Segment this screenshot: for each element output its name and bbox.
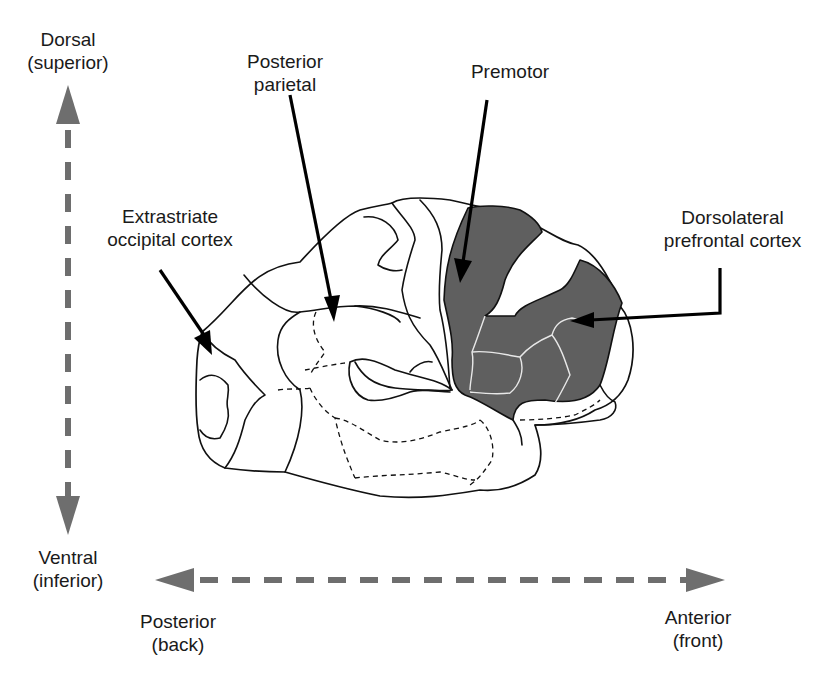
posterior-parietal-label-line1: Posterior xyxy=(230,50,340,73)
ventral-label-line1: Ventral xyxy=(18,546,118,569)
dorsal-label-line1: Dorsal xyxy=(18,28,118,51)
extrastriate-label-line1: Extrastriate xyxy=(90,205,250,228)
arrow-up-icon xyxy=(56,85,80,124)
frontal-highlight xyxy=(444,206,622,420)
arrow-right-icon xyxy=(686,568,725,592)
anterior-label: Anterior (front) xyxy=(648,606,748,652)
extrastriate-pointer xyxy=(160,270,204,335)
premotor-label-line1: Premotor xyxy=(455,60,565,83)
premotor-label: Premotor xyxy=(455,60,565,83)
arrow-left-icon xyxy=(155,568,194,592)
ventral-label: Ventral (inferior) xyxy=(18,546,118,592)
anterior-label-line1: Anterior xyxy=(648,606,748,629)
dorsal-ventral-axis xyxy=(56,85,80,535)
posterior-parietal-label-line2: parietal xyxy=(230,73,340,96)
posterior-label: Posterior (back) xyxy=(128,610,228,656)
dlpfc-label: Dorsolateral prefrontal cortex xyxy=(645,206,820,252)
extrastriate-label-line2: occipital cortex xyxy=(90,228,250,251)
dlpfc-label-line2: prefrontal cortex xyxy=(645,229,820,252)
dorsal-label-line2: (superior) xyxy=(18,51,118,74)
posterior-label-line1: Posterior xyxy=(128,610,228,633)
extrastriate-label: Extrastriate occipital cortex xyxy=(90,205,250,251)
brain-diagram xyxy=(0,0,825,673)
ventral-label-line2: (inferior) xyxy=(18,569,118,592)
arrow-down-icon xyxy=(56,496,80,535)
dorsal-label: Dorsal (superior) xyxy=(18,28,118,74)
posterior-anterior-axis xyxy=(155,568,725,592)
posterior-label-line2: (back) xyxy=(128,633,228,656)
posterior-parietal-label: Posterior parietal xyxy=(230,50,340,96)
anterior-label-line2: (front) xyxy=(648,629,748,652)
dlpfc-label-line1: Dorsolateral xyxy=(645,206,820,229)
